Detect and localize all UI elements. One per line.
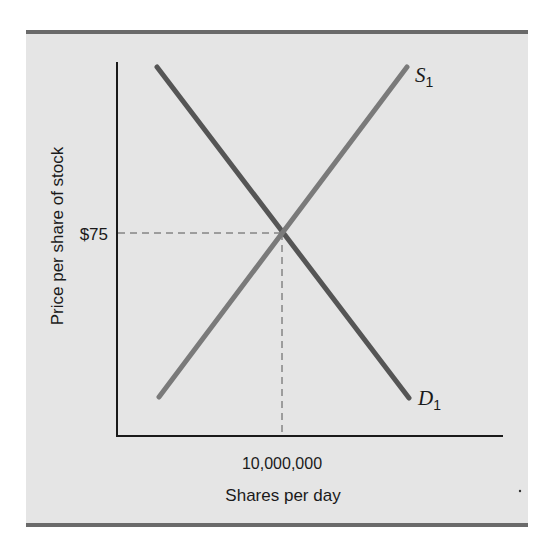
y-axis-title: Price per share of stock	[48, 146, 67, 325]
supply-label: S1	[415, 63, 434, 90]
y-tick-label: $75	[80, 225, 108, 244]
demand-label: D1	[417, 386, 441, 413]
stray-mark	[519, 490, 521, 492]
supply-demand-chart: S1 D1 $75 10,000,000 Shares per day Pric…	[0, 0, 554, 558]
x-axis-title: Shares per day	[225, 486, 341, 505]
x-tick-label: 10,000,000	[242, 455, 322, 472]
